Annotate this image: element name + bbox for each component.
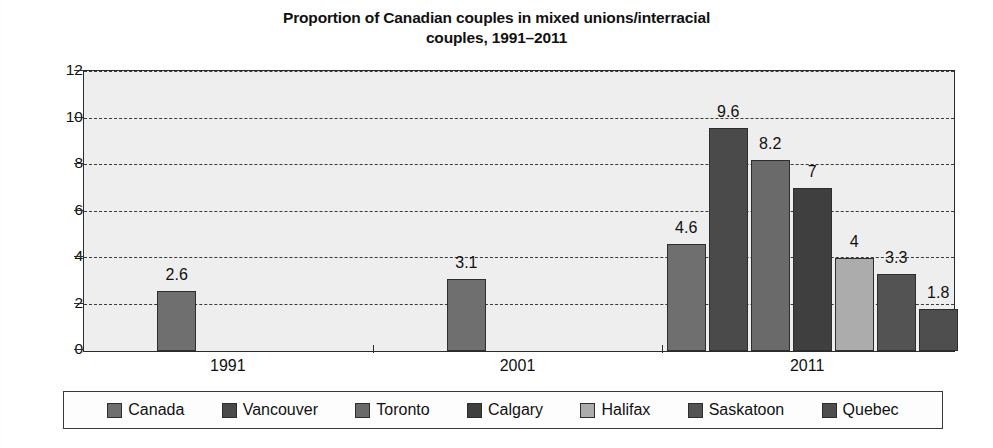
- bar-2001-canada[interactable]: [447, 279, 486, 351]
- bar-2011-vancouver[interactable]: [709, 128, 748, 351]
- legend-label-vancouver: Vancouver: [243, 402, 318, 418]
- y-tick-mark-2: [74, 303, 83, 304]
- legend-label-toronto: Toronto: [376, 402, 429, 418]
- bar-2011-canada[interactable]: [667, 244, 706, 351]
- x-axis: 199120012011: [83, 352, 955, 386]
- y-tick-mark-6: [74, 210, 83, 211]
- bar-value-label-1991-canada: 2.6: [166, 266, 188, 284]
- bar-2011-quebec[interactable]: [919, 309, 958, 351]
- legend-label-saskatoon: Saskatoon: [709, 402, 785, 418]
- bar-2011-toronto[interactable]: [751, 160, 790, 351]
- y-tick-mark-8: [74, 163, 83, 164]
- bar-value-label-2011-vancouver: 9.6: [717, 103, 739, 121]
- x-group-label-2001: 2001: [500, 357, 536, 375]
- gridline-10: [84, 118, 954, 119]
- bar-value-label-2011-toronto: 8.2: [759, 135, 781, 153]
- legend-swatch-icon-vancouver: [222, 403, 237, 418]
- bar-2011-halifax[interactable]: [835, 258, 874, 351]
- legend-label-quebec: Quebec: [843, 402, 899, 418]
- legend-item-calgary[interactable]: Calgary: [467, 402, 543, 418]
- legend-item-canada[interactable]: Canada: [107, 402, 184, 418]
- legend-label-canada: Canada: [128, 402, 184, 418]
- legend-item-toronto[interactable]: Toronto: [355, 402, 429, 418]
- legend-item-halifax[interactable]: Halifax: [580, 402, 650, 418]
- plot-area: 2.63.14.69.68.2743.31.8: [83, 70, 955, 352]
- gridline-12: [84, 71, 954, 72]
- chart-legend: CanadaVancouverTorontoCalgaryHalifaxSask…: [63, 391, 943, 429]
- legend-swatch-icon-saskatoon: [688, 403, 703, 418]
- legend-swatch-icon-quebec: [822, 403, 837, 418]
- legend-swatch-icon-halifax: [580, 403, 595, 418]
- chart-title: Proportion of Canadian couples in mixed …: [0, 8, 993, 48]
- legend-swatch-icon-toronto: [355, 403, 370, 418]
- legend-item-vancouver[interactable]: Vancouver: [222, 402, 318, 418]
- y-tick-mark-4: [74, 256, 83, 257]
- legend-label-calgary: Calgary: [488, 402, 543, 418]
- bar-value-label-2011-calgary: 7: [808, 163, 817, 181]
- y-axis: 024681012: [15, 70, 83, 352]
- x-group-label-2011: 2011: [790, 357, 824, 375]
- bar-value-label-2011-canada: 4.6: [675, 219, 697, 237]
- bar-value-label-2011-saskatoon: 3.3: [885, 249, 907, 267]
- y-tick-mark-10: [74, 117, 83, 118]
- bar-value-label-2001-canada: 3.1: [455, 254, 477, 272]
- bar-1991-canada[interactable]: [157, 291, 196, 351]
- legend-swatch-icon-calgary: [467, 403, 482, 418]
- chart-title-line-2: couples, 1991–2011: [0, 28, 993, 48]
- x-group-label-1991: 1991: [210, 357, 246, 375]
- plot-inner: 2.63.14.69.68.2743.31.8: [84, 71, 954, 351]
- legend-item-saskatoon[interactable]: Saskatoon: [688, 402, 785, 418]
- bar-2011-saskatoon[interactable]: [877, 274, 916, 351]
- legend-label-halifax: Halifax: [601, 402, 650, 418]
- bar-value-label-2011-quebec: 1.8: [927, 284, 949, 302]
- y-tick-mark-0: [74, 349, 83, 350]
- gridline-8: [84, 164, 954, 165]
- y-tick-mark-12: [74, 70, 83, 71]
- legend-swatch-icon-canada: [107, 403, 122, 418]
- x-tick-mark-1: [373, 345, 374, 353]
- bar-value-label-2011-halifax: 4: [850, 233, 859, 251]
- chart-title-line-1: Proportion of Canadian couples in mixed …: [0, 8, 993, 28]
- legend-item-quebec[interactable]: Quebec: [822, 402, 899, 418]
- x-tick-mark-2: [662, 345, 663, 353]
- bar-2011-calgary[interactable]: [793, 188, 832, 351]
